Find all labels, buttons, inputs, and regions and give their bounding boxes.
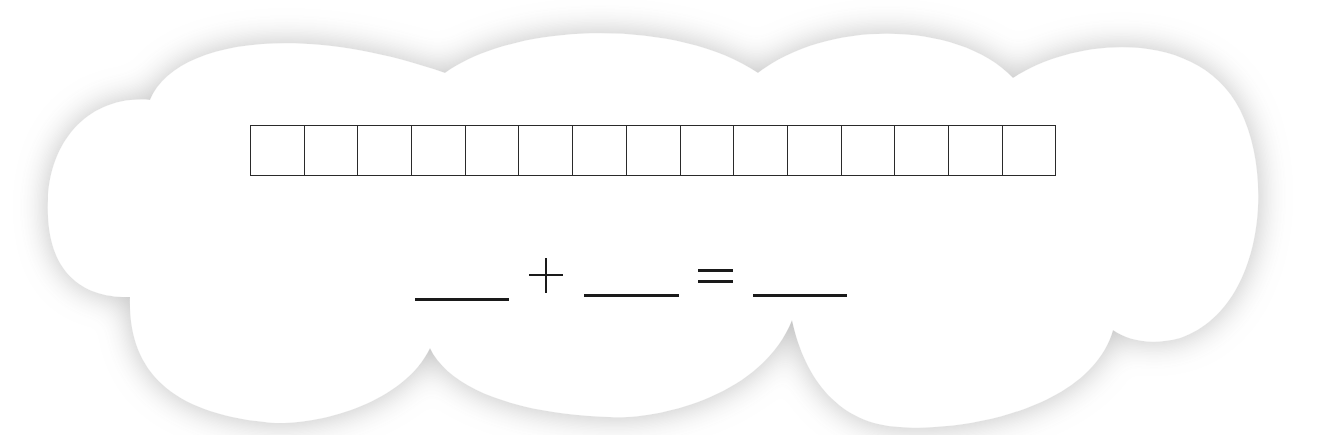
addition-worksheet: + = [0, 0, 1317, 435]
equals-icon-top-bar [698, 269, 733, 272]
addend-1-blank[interactable] [415, 298, 509, 301]
addition-equation: + = [0, 0, 1317, 435]
addend-2-blank[interactable] [584, 294, 679, 297]
plus-icon-vertical [545, 258, 547, 293]
equals-icon-bottom-bar [698, 280, 733, 283]
sum-blank[interactable] [753, 294, 847, 297]
